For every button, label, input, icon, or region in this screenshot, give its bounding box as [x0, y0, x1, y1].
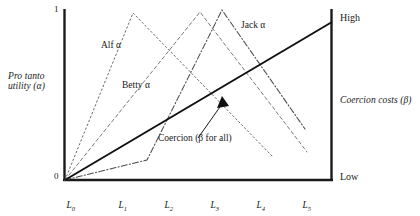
x-tick-sub-0: 0 — [72, 205, 75, 212]
x-tick-sub-4: 4 — [262, 205, 265, 212]
coercion-arrow-icon — [217, 96, 229, 108]
y-axis-max-label: 1 — [54, 5, 59, 15]
x-tick-sub-5: 5 — [308, 205, 311, 212]
chart-canvas — [0, 0, 420, 216]
x-tick-label-4: L4 — [247, 190, 265, 216]
x-tick-label-2: L2 — [155, 190, 173, 216]
y-axis-left-title: Pro tanto utility (α) — [8, 71, 45, 92]
curve-label-betty: Betty α — [122, 80, 150, 90]
x-tick-label-1: L1 — [109, 190, 127, 216]
curve-label-jack: Jack α — [241, 20, 265, 30]
y-axis-right-title: Coercion costs (β) — [340, 95, 412, 105]
y-axis-min-label: 0 — [54, 172, 59, 182]
coercion-annotation-label: Coercion (β for all) — [158, 133, 232, 143]
x-tick-sub-3: 3 — [216, 205, 219, 212]
x-tick-sub-1: 1 — [124, 205, 127, 212]
x-tick-label-5: L5 — [293, 190, 311, 216]
y-axis-right-low-label: Low — [340, 172, 358, 183]
x-tick-label-3: L3 — [201, 190, 219, 216]
x-tick-label-0: L0 — [57, 190, 75, 216]
chart-figure: 1 0 Pro tanto utility (α) High Low Coerc… — [0, 0, 420, 216]
y-axis-right-high-label: High — [340, 13, 360, 24]
curve-label-alf: Alf α — [101, 40, 121, 50]
curve-jack-alpha — [65, 10, 305, 180]
x-tick-sub-2: 2 — [170, 205, 173, 212]
